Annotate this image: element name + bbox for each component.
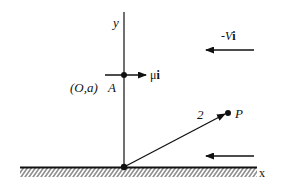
position-vector-arrow	[124, 114, 225, 167]
point-a-dot	[121, 72, 127, 78]
diagram-canvas: y x μi (O,a) A -Vi 2 P	[0, 0, 281, 188]
x-axis-label: x	[259, 166, 265, 180]
point-a-label: A	[107, 80, 116, 95]
point-p-dot	[225, 110, 231, 116]
position-vector-label: 2	[197, 107, 204, 122]
point-p-label: P	[234, 106, 243, 121]
wall	[20, 168, 257, 178]
stream-velocity-label: -Vi	[221, 29, 236, 43]
y-axis-label: y	[111, 15, 119, 30]
wall-hatching	[20, 168, 257, 177]
point-a-coordinate-label: (O,a)	[70, 80, 98, 95]
vortex-velocity-label: μi	[150, 68, 160, 82]
origin-dot	[121, 164, 127, 170]
